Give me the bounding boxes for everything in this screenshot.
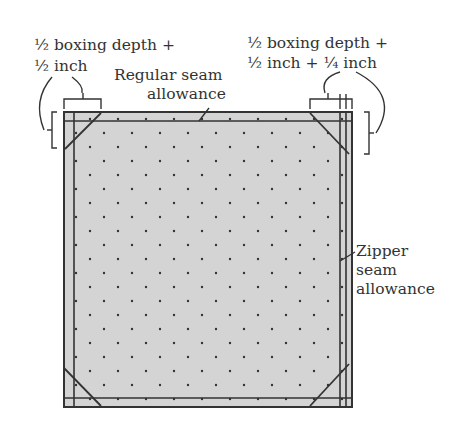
label-zipper-line3: allowance bbox=[356, 280, 435, 298]
callout-arc-left bbox=[40, 77, 53, 130]
label-top-right-line1: ½ boxing depth + bbox=[247, 34, 388, 52]
callout-arc-right bbox=[356, 72, 384, 133]
cushion-layout-diagram: ½ boxing depth + ½ inch Regular seam all… bbox=[0, 0, 473, 435]
label-zipper-line1: Zipper bbox=[356, 242, 409, 260]
callout-arc-right-top bbox=[324, 72, 340, 93]
label-regular-seam-line2: allowance bbox=[147, 85, 226, 103]
callout-arc-left-top bbox=[72, 77, 82, 93]
label-top-left-line1: ½ boxing depth + bbox=[34, 36, 175, 54]
label-regular-seam-line1: Regular seam bbox=[114, 66, 223, 84]
label-top-right-line2: ½ inch + ¼ inch bbox=[247, 54, 377, 72]
label-top-left-line2: ½ inch bbox=[34, 57, 88, 75]
label-zipper-line2: seam bbox=[356, 261, 397, 279]
fabric-panel bbox=[64, 112, 352, 407]
